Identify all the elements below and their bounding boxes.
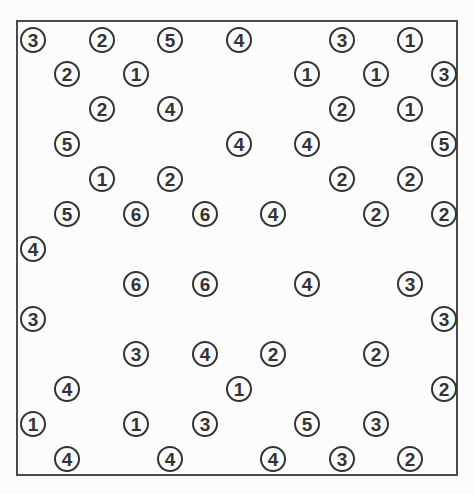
island-r11-c5[interactable]: 3 [192, 411, 218, 437]
island-r11-c10[interactable]: 3 [363, 411, 389, 437]
island-r4-c11[interactable]: 2 [397, 166, 423, 192]
island-r0-c0[interactable]: 3 [20, 27, 46, 53]
island-r0-c6[interactable]: 4 [226, 27, 252, 53]
island-r9-c10[interactable]: 2 [363, 341, 389, 367]
island-r3-c8[interactable]: 4 [294, 131, 320, 157]
island-r7-c11[interactable]: 3 [397, 271, 423, 297]
island-r0-c2[interactable]: 2 [89, 27, 115, 53]
island-r5-c7[interactable]: 4 [260, 201, 286, 227]
island-r2-c9[interactable]: 2 [329, 96, 355, 122]
island-r9-c5[interactable]: 4 [192, 341, 218, 367]
island-r11-c3[interactable]: 1 [123, 411, 149, 437]
island-r3-c1[interactable]: 5 [54, 131, 80, 157]
island-r10-c12[interactable]: 2 [431, 376, 457, 402]
island-r10-c1[interactable]: 4 [54, 376, 80, 402]
island-r3-c12[interactable]: 5 [431, 131, 457, 157]
island-r5-c10[interactable]: 2 [363, 201, 389, 227]
island-r12-c7[interactable]: 4 [260, 446, 286, 472]
island-r5-c1[interactable]: 5 [54, 201, 80, 227]
island-r9-c3[interactable]: 3 [123, 341, 149, 367]
island-r8-c12[interactable]: 3 [431, 306, 457, 332]
island-r5-c12[interactable]: 2 [431, 201, 457, 227]
island-r1-c12[interactable]: 3 [431, 61, 457, 87]
island-r12-c11[interactable]: 2 [397, 446, 423, 472]
island-r4-c9[interactable]: 2 [329, 166, 355, 192]
island-r2-c2[interactable]: 2 [89, 96, 115, 122]
island-r3-c6[interactable]: 4 [226, 131, 252, 157]
island-r0-c11[interactable]: 1 [397, 27, 423, 53]
island-r7-c8[interactable]: 4 [294, 271, 320, 297]
island-r10-c6[interactable]: 1 [226, 376, 252, 402]
island-r11-c8[interactable]: 5 [294, 411, 320, 437]
island-r7-c5[interactable]: 6 [192, 271, 218, 297]
island-r0-c9[interactable]: 3 [329, 27, 355, 53]
island-r12-c4[interactable]: 4 [157, 446, 183, 472]
island-r1-c3[interactable]: 1 [123, 61, 149, 87]
island-r2-c4[interactable]: 4 [157, 96, 183, 122]
island-r1-c10[interactable]: 1 [363, 61, 389, 87]
island-r1-c1[interactable]: 2 [54, 61, 80, 87]
island-r11-c0[interactable]: 1 [20, 411, 46, 437]
island-r8-c0[interactable]: 3 [20, 306, 46, 332]
island-r1-c8[interactable]: 1 [294, 61, 320, 87]
island-r4-c2[interactable]: 1 [89, 166, 115, 192]
island-r0-c4[interactable]: 5 [157, 27, 183, 53]
island-r6-c0[interactable]: 4 [20, 236, 46, 262]
island-r7-c3[interactable]: 6 [123, 271, 149, 297]
island-r4-c4[interactable]: 2 [157, 166, 183, 192]
puzzle-board: 3254312111324215445122256642246643333422… [16, 20, 458, 476]
island-r12-c1[interactable]: 4 [54, 446, 80, 472]
island-r12-c9[interactable]: 3 [329, 446, 355, 472]
island-r9-c7[interactable]: 2 [260, 341, 286, 367]
island-r5-c5[interactable]: 6 [192, 201, 218, 227]
island-r2-c11[interactable]: 1 [397, 96, 423, 122]
island-r5-c3[interactable]: 6 [123, 201, 149, 227]
